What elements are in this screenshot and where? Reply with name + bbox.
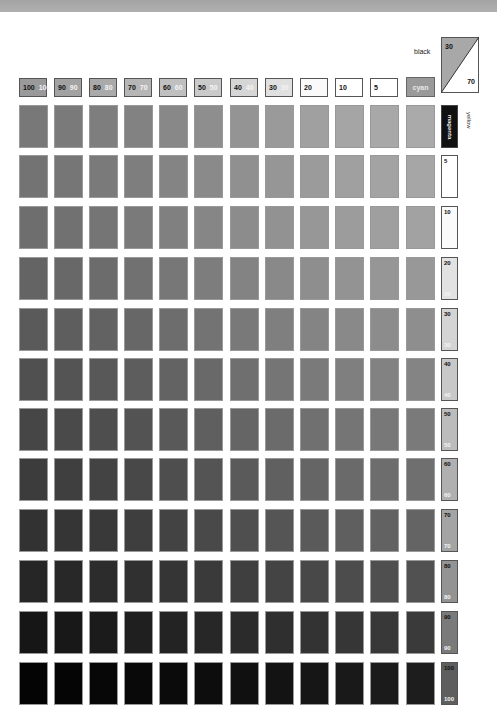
swatch <box>335 308 364 351</box>
other-value: 70 <box>467 78 475 85</box>
row-label-top: 60 <box>444 461 451 467</box>
swatch <box>159 458 188 501</box>
swatch <box>54 155 83 198</box>
column-header: 7070 <box>124 78 152 97</box>
header-value-alt: 90 <box>70 84 78 91</box>
row-label-bottom: 70 <box>444 543 451 549</box>
header-value: 70 <box>128 84 136 91</box>
swatch <box>54 308 83 351</box>
swatch <box>370 257 399 300</box>
header-value: 30 <box>269 84 277 91</box>
swatch <box>89 560 118 603</box>
row-label-top: 80 <box>444 563 451 569</box>
swatch <box>265 308 294 351</box>
swatch <box>300 358 329 401</box>
swatch <box>300 308 329 351</box>
row-label: 3030 <box>441 308 458 351</box>
row-label-bottom: 40 <box>444 392 451 398</box>
swatch <box>370 611 399 654</box>
swatch <box>406 105 435 148</box>
swatch <box>124 105 153 148</box>
swatch <box>230 408 259 451</box>
swatch <box>194 560 223 603</box>
column-header: 8080 <box>89 78 117 97</box>
column-header: 5 <box>370 78 398 97</box>
swatch <box>194 662 223 705</box>
header-value: 10 <box>339 84 347 91</box>
swatch <box>406 206 435 249</box>
column-header: 5050 <box>194 78 222 97</box>
swatch <box>159 408 188 451</box>
swatch <box>159 257 188 300</box>
swatch <box>265 206 294 249</box>
row-label-bottom: 20 <box>444 291 451 297</box>
swatch <box>335 458 364 501</box>
swatch <box>370 358 399 401</box>
row-label: 9090 <box>441 611 458 654</box>
row-label-top: 10 <box>444 209 451 215</box>
swatch <box>370 408 399 451</box>
swatch <box>124 155 153 198</box>
top-band <box>0 0 497 12</box>
swatch <box>230 509 259 552</box>
swatch <box>370 560 399 603</box>
row-label-top: 70 <box>444 512 451 518</box>
swatch <box>194 509 223 552</box>
swatch <box>406 560 435 603</box>
header-value-alt: 40 <box>246 84 254 91</box>
column-header: 4040 <box>230 78 258 97</box>
swatch <box>124 257 153 300</box>
swatch <box>335 155 364 198</box>
swatch <box>265 560 294 603</box>
magenta-label: magenta <box>441 105 458 148</box>
swatch <box>265 662 294 705</box>
swatch <box>194 206 223 249</box>
magenta-label-text: magenta <box>447 114 453 139</box>
cyan-label-text: cyan <box>413 84 429 91</box>
row-label-bottom: 30 <box>444 342 451 348</box>
header-value-alt: 100 <box>39 84 51 91</box>
swatch <box>159 662 188 705</box>
swatch <box>406 611 435 654</box>
swatch <box>124 611 153 654</box>
swatch <box>230 458 259 501</box>
swatch <box>370 509 399 552</box>
swatch <box>89 155 118 198</box>
swatch <box>300 560 329 603</box>
swatch <box>230 105 259 148</box>
swatch <box>265 257 294 300</box>
swatch <box>19 358 48 401</box>
swatch <box>335 560 364 603</box>
row-label-top: 20 <box>444 260 451 266</box>
swatch <box>230 560 259 603</box>
swatch <box>194 308 223 351</box>
swatch <box>370 458 399 501</box>
swatch <box>124 206 153 249</box>
column-header: 100100 <box>19 78 47 97</box>
swatch <box>19 408 48 451</box>
swatch <box>230 155 259 198</box>
row-label: 6060 <box>441 458 458 501</box>
swatch <box>265 155 294 198</box>
column-header: 10 <box>335 78 363 97</box>
swatch <box>19 155 48 198</box>
swatch <box>230 257 259 300</box>
swatch <box>54 560 83 603</box>
row-label-top: 50 <box>444 411 451 417</box>
swatch <box>124 509 153 552</box>
swatch <box>300 408 329 451</box>
header-value-alt: 70 <box>140 84 148 91</box>
swatch <box>19 257 48 300</box>
swatch <box>89 105 118 148</box>
swatch <box>54 257 83 300</box>
swatch <box>19 509 48 552</box>
row-label: 5050 <box>441 408 458 451</box>
swatch <box>335 206 364 249</box>
row-label: 7070 <box>441 509 458 552</box>
swatch <box>89 408 118 451</box>
swatch <box>19 105 48 148</box>
swatch <box>230 662 259 705</box>
header-value: 90 <box>58 84 66 91</box>
swatch <box>54 105 83 148</box>
column-header: 9090 <box>54 78 82 97</box>
